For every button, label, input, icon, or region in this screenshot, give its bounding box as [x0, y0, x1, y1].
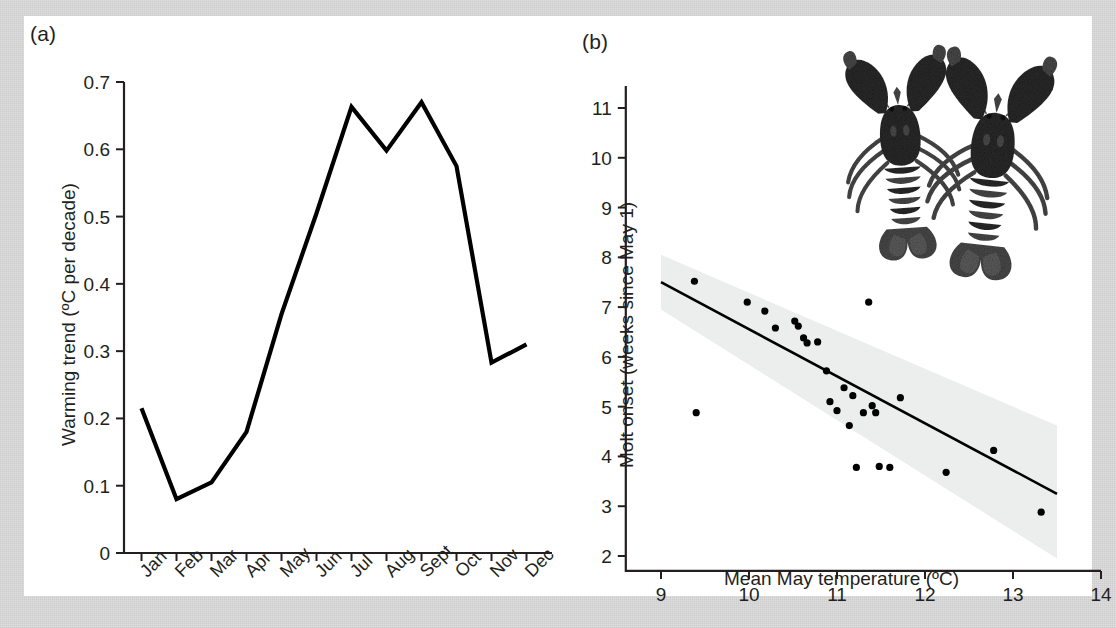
- figure-canvas: (a) Warming trend (ºC per decade) 00.10.…: [24, 16, 1092, 596]
- panel-a: (a) Warming trend (ºC per decade) 00.10.…: [24, 16, 564, 596]
- panel-b-scatter-point: [853, 464, 860, 471]
- panel-b-scatter-point: [826, 398, 833, 405]
- panel-b-scatter-point: [691, 278, 698, 285]
- panel-a-y-tick-label: 0.3: [84, 341, 110, 362]
- panel-b-x-tick-label: 10: [738, 584, 759, 605]
- panel-b-x-tick-label: 14: [1090, 584, 1112, 605]
- panel-b-x-tick-label: 11: [827, 584, 847, 605]
- panel-b-scatter-point: [803, 339, 810, 346]
- panel-a-trend-line: [142, 102, 527, 499]
- panel-a-y-tick-label: 0.6: [84, 139, 110, 160]
- panel-a-plot: 00.10.20.30.40.50.60.7: [24, 16, 564, 596]
- panel-b-scatter-point: [833, 407, 840, 414]
- panel-b-regression-line: [661, 282, 1057, 494]
- panel-b-scatter-point: [872, 409, 879, 416]
- panel-b-scatter-point: [990, 447, 997, 454]
- panel-b-y-tick-label: 10: [591, 148, 612, 169]
- panel-a-y-tick-label: 0.2: [84, 408, 110, 429]
- panel-b-y-tick-label: 7: [601, 297, 612, 318]
- panel-b-confidence-band: [661, 255, 1057, 559]
- panel-b-scatter-point: [1038, 509, 1045, 516]
- panel-b-y-tick-label: 9: [601, 198, 612, 219]
- panel-b-x-tick-label: 12: [914, 584, 935, 605]
- panel-b-scatter-point: [814, 338, 821, 345]
- panel-b-scatter-point: [761, 307, 768, 314]
- panel-b-scatter-point: [840, 384, 847, 391]
- panel-b-scatter-point: [869, 402, 876, 409]
- panel-b-x-tick-label: 9: [656, 584, 667, 605]
- panel-b-scatter-point: [772, 324, 779, 331]
- panel-b-plot: 23456789101191011121314: [564, 16, 1092, 596]
- panel-b-y-tick-label: 8: [601, 247, 612, 268]
- panel-a-y-tick-label: 0.7: [84, 72, 110, 93]
- panel-b-scatter-point: [693, 409, 700, 416]
- panel-a-y-tick-label: 0.5: [84, 207, 110, 228]
- panel-b-scatter-point: [860, 409, 867, 416]
- panel-a-y-tick-label: 0.1: [84, 476, 110, 497]
- panel-b-y-tick-label: 11: [592, 98, 612, 119]
- panel-b-scatter-point: [943, 469, 950, 476]
- two-lobsters-photo: [839, 44, 1062, 285]
- panel-a-y-tick-label: 0: [99, 543, 110, 564]
- panel-b-y-tick-label: 2: [601, 546, 612, 567]
- panel-b-scatter-point: [849, 392, 856, 399]
- panel-b-y-tick-label: 3: [601, 496, 612, 517]
- panel-b-scatter-point: [886, 464, 893, 471]
- panel-b-scatter-point: [897, 394, 904, 401]
- panel-b-scatter-point: [876, 463, 883, 470]
- panel-b-scatter-point: [823, 367, 830, 374]
- panel-b-scatter-point: [744, 299, 751, 306]
- panel-b-y-tick-label: 5: [601, 397, 612, 418]
- panel-b: (b) Molt onset (weeks since May 1) Mean …: [564, 16, 1092, 596]
- panel-b-y-tick-label: 6: [601, 347, 612, 368]
- panel-a-y-tick-label: 0.4: [84, 274, 111, 295]
- panel-b-scatter-point: [865, 299, 872, 306]
- panel-b-x-tick-label: 13: [1002, 584, 1023, 605]
- panel-b-y-tick-label: 4: [601, 446, 612, 467]
- panel-b-scatter-point: [846, 422, 853, 429]
- panel-b-scatter-point: [795, 322, 802, 329]
